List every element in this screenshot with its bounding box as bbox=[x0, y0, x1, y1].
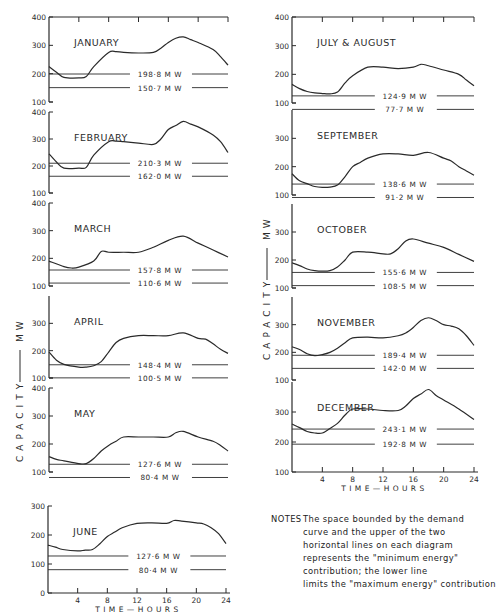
y-tick-label: 100 bbox=[32, 98, 47, 107]
hline-label: 198·8 M W bbox=[138, 70, 182, 79]
y-tick-label: 100 bbox=[32, 189, 47, 198]
x-tick-label: 8 bbox=[105, 596, 110, 605]
y-tick-label: 300 bbox=[275, 408, 290, 417]
hline-label: 243·1 M W bbox=[383, 425, 427, 434]
chart-june: 01002003004812162024T I M E — H O U R SJ… bbox=[31, 502, 231, 614]
y-tick-label: 300 bbox=[31, 502, 46, 511]
y-tick-label: 200 bbox=[32, 162, 47, 171]
chart-title: MAY bbox=[74, 408, 95, 419]
y-tick-label: 200 bbox=[275, 256, 290, 265]
x-tick-label: 4 bbox=[75, 596, 80, 605]
hline-label: 124·9 M W bbox=[383, 92, 427, 101]
notes-line: curve and the upper of the two bbox=[303, 526, 502, 539]
y-tick-label: 400 bbox=[32, 108, 47, 117]
y-tick-label: 300 bbox=[32, 319, 47, 328]
y-tick-label: 100 bbox=[32, 282, 47, 291]
hline-label: 127·6 M W bbox=[136, 552, 180, 561]
y-tick-label: 200 bbox=[32, 440, 47, 449]
chart-title: JULY & AUGUST bbox=[316, 37, 396, 48]
y-tick-label: 400 bbox=[32, 384, 47, 393]
y-tick-label: 400 bbox=[32, 13, 47, 22]
chart-march: 100200300400MARCH157·8 M W110·6 M W bbox=[32, 199, 228, 291]
chart-april: 100200300APRIL148·4 M W100·5 M W bbox=[32, 296, 228, 383]
chart-title: DECEMBER bbox=[317, 402, 374, 413]
hline-label: 77·7 M W bbox=[385, 105, 424, 114]
svg-text:CAPACITY: CAPACITY bbox=[262, 277, 272, 360]
chart-title: APRIL bbox=[74, 316, 104, 327]
y-tick-label: 300 bbox=[32, 135, 47, 144]
hline-label: 142·0 M W bbox=[383, 364, 427, 373]
hline-label: 80·4 M W bbox=[139, 566, 178, 575]
chart-february: 100200300400FEBRUARY210·3 M W162·0 M W bbox=[32, 108, 228, 198]
y-tick-label: 200 bbox=[31, 531, 46, 540]
x-axis-title: T I M E — H O U R S bbox=[340, 484, 424, 493]
y-tick-label: 200 bbox=[32, 347, 47, 356]
y-tick-label: 100 bbox=[275, 99, 290, 108]
chart-july-august: 100200300400JULY & AUGUST124·9 M W77·7 M… bbox=[275, 13, 474, 114]
demand-curve bbox=[49, 431, 228, 464]
x-tick-label: 24 bbox=[221, 596, 231, 605]
y-tick-label: 200 bbox=[275, 348, 290, 357]
y-tick-label: 100 bbox=[31, 560, 46, 569]
y-tick-label: 400 bbox=[275, 13, 290, 22]
y-tick-label: 200 bbox=[275, 163, 290, 172]
y-tick-label: 100 bbox=[275, 376, 290, 385]
y-tick-label: 300 bbox=[275, 321, 290, 330]
y-tick-label: 100 bbox=[275, 191, 290, 200]
notes-line: represents the "minimum energy" bbox=[303, 552, 502, 565]
hline-label: 162·0 M W bbox=[138, 172, 182, 181]
notes-line: The space bounded by the demand bbox=[303, 513, 502, 526]
y-tick-label: 200 bbox=[275, 70, 290, 79]
chart-title: SEPTEMBER bbox=[317, 130, 378, 141]
demand-curve bbox=[49, 236, 228, 268]
y-tick-label: 300 bbox=[275, 42, 290, 51]
hline-label: 192·8 M W bbox=[383, 440, 427, 449]
hline-label: 110·6 M W bbox=[138, 279, 182, 288]
chart-title: OCTOBER bbox=[317, 224, 367, 235]
chart-january: 100200300400JANUARY198·8 M W150·7 M W bbox=[32, 13, 228, 107]
chart-september: 100200300SEPTEMBER138·6 M W91·2 M W bbox=[275, 110, 474, 202]
y-tick-label: 200 bbox=[32, 254, 47, 263]
chart-title: JUNE bbox=[72, 526, 98, 537]
y-tick-label: 200 bbox=[32, 70, 47, 79]
y-axis-title: CAPACITYMW bbox=[262, 215, 272, 360]
hline-label: 150·7 M W bbox=[138, 84, 182, 93]
y-tick-label: 300 bbox=[32, 41, 47, 50]
notes-line: limits the "maximum energy" contribution bbox=[303, 578, 502, 591]
y-tick-label: 300 bbox=[275, 228, 290, 237]
chart-may: 100200300400MAY127·6 M W80·4 M W bbox=[32, 384, 228, 482]
notes-body: The space bounded by the demand curve an… bbox=[303, 513, 502, 591]
svg-text:CAPACITY: CAPACITY bbox=[15, 379, 25, 462]
y-tick-label: 100 bbox=[275, 284, 290, 293]
y-tick-label: 300 bbox=[32, 412, 47, 421]
hline-label: 189·4 M W bbox=[383, 351, 427, 360]
y-tick-label: 200 bbox=[275, 438, 290, 447]
y-tick-label: 100 bbox=[32, 468, 47, 477]
x-tick-label: 16 bbox=[162, 596, 172, 605]
x-axis-title: T I M E — H O U R S bbox=[94, 605, 178, 614]
hline-label: 148·4 M W bbox=[138, 361, 182, 370]
hline-label: 108·5 M W bbox=[383, 282, 427, 291]
y-tick-label: 300 bbox=[275, 134, 290, 143]
hline-label: 157·8 M W bbox=[138, 266, 182, 275]
svg-text:MW: MW bbox=[15, 317, 25, 342]
x-tick-label: 20 bbox=[192, 596, 202, 605]
x-tick-label: 24 bbox=[469, 475, 479, 484]
notes-header: NOTES bbox=[271, 513, 302, 526]
chart-december: 1002003004812162024T I M E — H O U R SDE… bbox=[275, 382, 479, 493]
demand-curve bbox=[292, 64, 474, 94]
svg-text:MW: MW bbox=[262, 215, 272, 240]
chart-november: 100200300NOVEMBER189·4 M W142·0 M W bbox=[275, 297, 474, 385]
hline-label: 138·6 M W bbox=[383, 180, 427, 189]
chart-title: JANUARY bbox=[73, 37, 119, 48]
x-tick-label: 8 bbox=[350, 475, 355, 484]
y-tick-label: 100 bbox=[275, 468, 290, 477]
x-tick-label: 12 bbox=[378, 475, 388, 484]
y-tick-label: 400 bbox=[32, 199, 47, 208]
y-tick-label: 0 bbox=[40, 589, 45, 598]
x-tick-label: 20 bbox=[439, 475, 449, 484]
x-tick-label: 16 bbox=[409, 475, 419, 484]
x-tick-label: 12 bbox=[132, 596, 142, 605]
chart-title: MARCH bbox=[74, 223, 111, 234]
demand-curve bbox=[292, 239, 474, 271]
